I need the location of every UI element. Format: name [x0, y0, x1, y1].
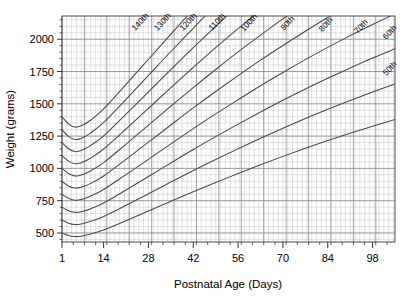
x-tick-label-42: 42	[187, 252, 199, 264]
y-tick-label-2000: 2000	[30, 33, 54, 45]
y-tick-label-1000: 1000	[30, 162, 54, 174]
y-tick-label-750: 750	[36, 195, 54, 207]
y-tick-label-1750: 1750	[30, 66, 54, 78]
y-tick-label-1250: 1250	[30, 130, 54, 142]
x-tick-label-1: 1	[59, 252, 65, 264]
x-tick-label-98: 98	[366, 252, 378, 264]
growth-chart-canvas: 140th130th120th110th100th90th80th70th60t…	[0, 0, 410, 298]
x-tick-label-70: 70	[277, 252, 289, 264]
x-tick-label-14: 14	[98, 252, 110, 264]
x-tick-label-56: 56	[232, 252, 244, 264]
growth-chart-figure: 140th130th120th110th100th90th80th70th60t…	[0, 0, 410, 298]
y-tick-label-500: 500	[36, 227, 54, 239]
x-axis-title: Postnatal Age (Days)	[174, 278, 282, 290]
y-axis-title: Weight (grams)	[4, 90, 16, 169]
x-tick-label-84: 84	[322, 252, 334, 264]
y-tick-label-1500: 1500	[30, 98, 54, 110]
x-tick-label-28: 28	[142, 252, 154, 264]
